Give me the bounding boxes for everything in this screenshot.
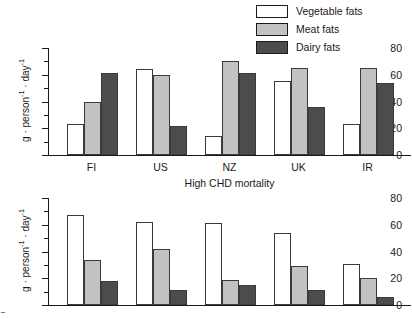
y-tick-minor (44, 265, 48, 266)
y-tick-major (42, 102, 48, 103)
bar (170, 290, 187, 305)
bar (377, 297, 394, 305)
bar (153, 249, 170, 305)
bar (153, 75, 170, 155)
page-edge-mark (1, 312, 5, 313)
bar (291, 266, 308, 305)
bar (222, 280, 239, 305)
y-tick-minor (44, 61, 48, 62)
bar (274, 81, 291, 155)
x-category-label: IR (362, 161, 373, 173)
bar (136, 69, 153, 155)
legend-item-vegetable-fats: Vegetable fats (256, 5, 363, 18)
y-axis-label: g · person-1 · day-1 (20, 45, 31, 155)
y-tick-minor (44, 238, 48, 239)
y-tick-major (42, 48, 48, 49)
y-tick-major (42, 198, 48, 199)
y-tick-major (42, 252, 48, 253)
plot-area-lower-chd-mortality: g · person-1 · day-1020406080 (0, 198, 382, 319)
y-tick-minor (44, 211, 48, 212)
bar (360, 68, 377, 155)
bar-group-container (49, 198, 412, 305)
bar (343, 264, 360, 305)
bar (239, 73, 256, 155)
y-axis-label: g · person-1 · day-1 (20, 195, 31, 305)
bar (84, 102, 101, 156)
bar (205, 136, 222, 155)
bar-group-container (49, 48, 412, 155)
y-tick-major (42, 128, 48, 129)
x-axis-line (48, 305, 411, 306)
y-tick-major (42, 155, 48, 156)
x-category-label: FI (87, 161, 96, 173)
panel-lower-chd-mortality: g · person-1 · day-1020406080 (0, 198, 382, 319)
bar (136, 222, 153, 305)
legend-label-vegetable-fats: Vegetable fats (296, 5, 363, 18)
y-tick-minor (44, 115, 48, 116)
x-axis-line (48, 155, 411, 156)
y-tick-major (42, 278, 48, 279)
chart-legend: Vegetable fats Meat fats Dairy fats (256, 5, 363, 54)
y-tick-minor (44, 88, 48, 89)
bar (360, 278, 377, 305)
bar (343, 124, 360, 155)
bar (101, 281, 118, 305)
bar (170, 126, 187, 155)
panel-high-chd-mortality: g · person-1 · day-1020406080FIUSNZUKIRH… (0, 48, 382, 195)
x-category-label: US (153, 161, 168, 173)
y-tick-major (42, 75, 48, 76)
bar (84, 260, 101, 305)
x-category-label: NZ (223, 161, 237, 173)
bar (308, 107, 325, 155)
y-tick-major (42, 225, 48, 226)
bar (205, 223, 222, 305)
legend-label-meat-fats: Meat fats (296, 23, 339, 36)
bar (222, 61, 239, 155)
bar (239, 285, 256, 305)
x-category-label: UK (291, 161, 306, 173)
bar (274, 233, 291, 305)
y-tick-minor (44, 142, 48, 143)
y-tick-minor (44, 292, 48, 293)
plot-area-high-chd-mortality: g · person-1 · day-1020406080FIUSNZUKIRH… (0, 48, 382, 195)
bar (308, 290, 325, 305)
bar (67, 215, 84, 305)
bar (67, 124, 84, 155)
bar (101, 73, 118, 155)
axes: 020406080FIUSNZUKIRHigh CHD mortality (48, 48, 411, 155)
legend-swatch-meat-fats (256, 23, 288, 36)
x-axis-label: High CHD mortality (185, 177, 275, 189)
y-tick-major (42, 305, 48, 306)
axes: 020406080 (48, 198, 411, 305)
bar (291, 68, 308, 155)
legend-item-meat-fats: Meat fats (256, 23, 363, 36)
bar (377, 83, 394, 155)
legend-swatch-vegetable-fats (256, 5, 288, 18)
